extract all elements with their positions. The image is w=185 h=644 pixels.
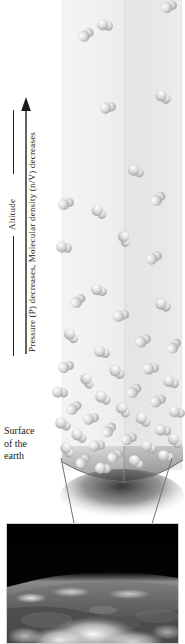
altitude-guide-lower xyxy=(13,236,14,356)
column-edge-right xyxy=(181,0,182,470)
earth-limb-image xyxy=(7,524,178,643)
earth-photograph xyxy=(6,523,179,644)
column-edge-left xyxy=(62,0,63,470)
altitude-axis-label: Altitude xyxy=(7,178,17,230)
pressure-density-axis-label: Pressure (P) decreases, Molecular densit… xyxy=(27,100,37,352)
atmosphere-figure: Altitude Pressure (P) decreases, Molecul… xyxy=(0,0,185,644)
column-face-left xyxy=(62,0,124,470)
surface-caption-line-1: Surface xyxy=(4,425,60,438)
altitude-guide-upper xyxy=(13,110,14,174)
